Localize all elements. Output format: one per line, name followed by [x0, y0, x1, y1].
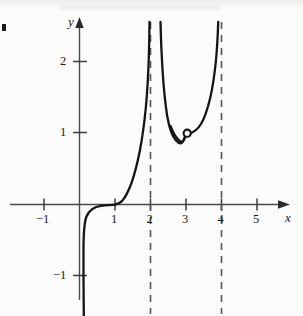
open-circle-hole-at-3-1 — [184, 130, 191, 137]
x-tick-label-1: 1 — [111, 212, 117, 227]
y-tick-label-1: 1 — [60, 125, 66, 140]
graph-plot — [0, 0, 303, 316]
x-tick-label-5: 5 — [253, 212, 259, 227]
y-tick-label-2: 2 — [60, 54, 66, 69]
curve-branch-middle — [161, 22, 187, 143]
y-axis-arrowhead — [75, 17, 83, 28]
x-tick-label-3: 3 — [182, 212, 188, 227]
x-tick-label-4: 4 — [218, 212, 224, 227]
y-axis-label: y — [68, 14, 74, 30]
curve-branch-left — [83, 22, 149, 316]
x-axis-label: x — [285, 210, 291, 226]
x-tick-label-2: 2 — [147, 212, 153, 227]
curve-branch-right — [190, 22, 219, 134]
x-axis-arrowhead — [278, 200, 290, 208]
y-tick-label-minus1: −1 — [53, 268, 66, 283]
x-tick-label-minus1: −1 — [36, 212, 49, 227]
figure-container: −1 1 2 3 4 5 2 1 −1 x y — [0, 0, 303, 316]
